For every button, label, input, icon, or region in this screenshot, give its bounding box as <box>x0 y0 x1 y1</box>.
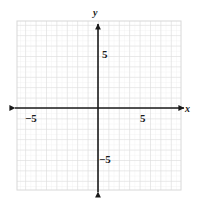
y-axis-label: y <box>93 8 97 18</box>
coordinate-plane: 5 −5 5 −5 x y <box>0 0 199 211</box>
x-axis-tick-label-positive: 5 <box>140 113 146 124</box>
y-axis-tick-label-negative: −5 <box>99 154 111 165</box>
y-axis-tick-label-positive: 5 <box>102 49 108 60</box>
x-axis-label: x <box>185 104 190 114</box>
graph-canvas <box>0 0 199 211</box>
x-axis-tick-label-negative: −5 <box>25 113 37 124</box>
